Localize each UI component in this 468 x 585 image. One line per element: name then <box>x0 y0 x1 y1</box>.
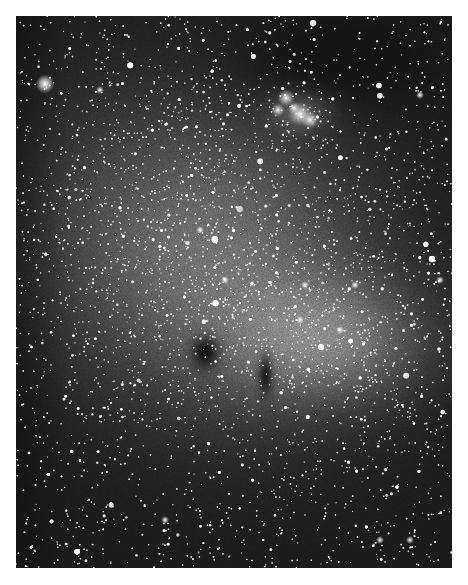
star-field-canvas <box>16 16 452 568</box>
page <box>0 0 468 585</box>
star-field-photo <box>16 16 452 568</box>
